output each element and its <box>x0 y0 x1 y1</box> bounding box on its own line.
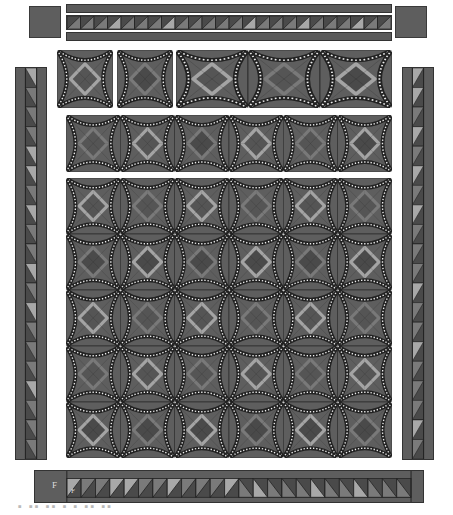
top-border-strip-lower <box>66 32 392 41</box>
middle-row-blocks <box>66 115 392 172</box>
top-border-strip-upper <box>66 4 392 13</box>
top-left-corner-square <box>29 6 61 38</box>
main-block-grid <box>66 178 392 458</box>
bottom-border-label-f: F <box>52 480 57 490</box>
bottom-border <box>34 470 424 503</box>
left-side-border <box>15 67 47 460</box>
right-side-border <box>402 67 434 460</box>
top-row-block-2 <box>117 50 173 108</box>
bottom-border-inner-label-f: F <box>71 487 75 495</box>
top-border-triangle-strip <box>66 15 392 30</box>
top-row-block-1 <box>57 50 113 108</box>
top-right-corner-square <box>395 6 427 38</box>
caption: ▪ ▪▪ ▪▪ ▪ ▪ ▪▪ ▪▪ <box>18 500 113 512</box>
top-row-block-group <box>176 50 392 108</box>
